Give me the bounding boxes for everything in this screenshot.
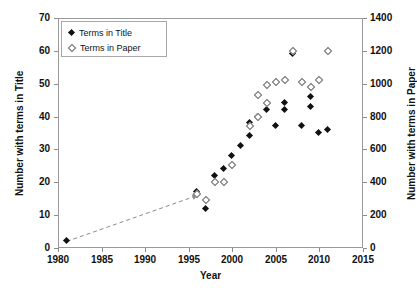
y2-tick-label: 0: [370, 243, 404, 253]
x-tick-label: 1980: [38, 255, 78, 265]
y-tick-mark: [54, 84, 58, 85]
y2-tick-mark: [363, 18, 367, 19]
y2-axis-title: Number with terms in Paper: [406, 67, 417, 200]
y2-tick-label: 1200: [370, 46, 404, 56]
y-axis-title: Number with terms in Title: [14, 70, 25, 195]
x-tick-mark: [363, 248, 364, 252]
x-tick-label: 1995: [169, 255, 209, 265]
legend-label: Terms in Paper: [80, 43, 141, 53]
x-tick-label: 2010: [299, 255, 339, 265]
legend-label: Terms in Title: [79, 28, 132, 38]
y2-tick-label: 600: [370, 144, 404, 154]
y-tick-mark: [54, 51, 58, 52]
y-tick-mark: [54, 117, 58, 118]
x-tick-mark: [145, 248, 146, 252]
y-tick-mark: [54, 149, 58, 150]
y2-tick-mark: [363, 84, 367, 85]
y-tick-label: 30: [24, 144, 50, 154]
y2-tick-mark: [363, 182, 367, 183]
y-tick-label: 70: [24, 13, 50, 23]
y2-tick-label: 800: [370, 112, 404, 122]
x-axis-title: Year: [200, 270, 221, 281]
y2-tick-mark: [363, 51, 367, 52]
x-tick-label: 1990: [125, 255, 165, 265]
x-tick-mark: [232, 248, 233, 252]
x-tick-mark: [58, 248, 59, 252]
x-tick-label: 2015: [343, 255, 383, 265]
y-tick-mark: [54, 18, 58, 19]
y-tick-mark: [54, 182, 58, 183]
y-tick-mark: [54, 215, 58, 216]
filled-diamond-icon: [68, 29, 75, 36]
y-tick-label: 0: [24, 243, 50, 253]
x-tick-mark: [276, 248, 277, 252]
x-tick-mark: [319, 248, 320, 252]
legend: Terms in Title Terms in Paper: [61, 21, 167, 57]
y2-tick-label: 200: [370, 210, 404, 220]
y-tick-label: 40: [24, 112, 50, 122]
y-tick-label: 50: [24, 79, 50, 89]
x-tick-label: 2005: [256, 255, 296, 265]
x-tick-label: 1985: [82, 255, 122, 265]
legend-entry-terms-in-title: Terms in Title: [69, 25, 166, 40]
y2-tick-label: 1000: [370, 79, 404, 89]
y2-tick-label: 400: [370, 177, 404, 187]
legend-entry-terms-in-paper: Terms in Paper: [69, 40, 166, 55]
y2-tick-mark: [363, 149, 367, 150]
y2-tick-mark: [363, 215, 367, 216]
y-tick-label: 10: [24, 210, 50, 220]
x-tick-mark: [102, 248, 103, 252]
x-tick-label: 2000: [212, 255, 252, 265]
y2-tick-label: 1400: [370, 13, 404, 23]
open-diamond-icon: [68, 43, 76, 51]
y-tick-label: 60: [24, 46, 50, 56]
y2-tick-mark: [363, 117, 367, 118]
x-tick-mark: [189, 248, 190, 252]
y-tick-label: 20: [24, 177, 50, 187]
